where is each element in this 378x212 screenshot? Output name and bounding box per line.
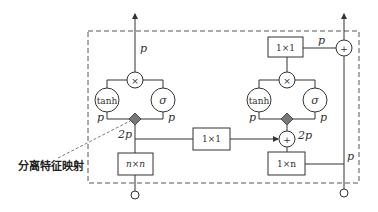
right-tanh-p-label: p: [249, 111, 256, 124]
left-conv-label: n×n: [126, 159, 145, 169]
right-sigma-p-label: p: [320, 111, 327, 124]
right-split-diamond-icon: [281, 113, 293, 125]
right-top-p-label: p: [318, 34, 325, 47]
left-tanh-label: tanh: [97, 96, 118, 106]
left-split-diamond-icon: [129, 113, 141, 125]
split-feature-map-annotation: 分离特征映射: [18, 159, 84, 173]
right-multiply-icon: ×: [283, 76, 291, 86]
left-tanh-p-label: p: [97, 111, 104, 124]
left-gated-block: p × tanh σ p p 2p n×n: [95, 14, 175, 199]
middle-conv-label: 1×1: [202, 134, 221, 144]
right-input-node: [340, 189, 348, 197]
left-split-label: 2p: [117, 128, 132, 141]
right-add-icon: +: [283, 135, 291, 145]
middle-connection: 1×1: [135, 128, 278, 150]
right-add-label: 2p: [297, 129, 312, 142]
gated-conv-diagram: p × tanh σ p p 2p n×n 分离特征映射 1×1 1×1 p: [0, 0, 378, 212]
right-sigmoid-label: σ: [311, 94, 319, 107]
left-multiply-icon: ×: [131, 76, 139, 86]
left-sigma-p-label: p: [168, 111, 175, 124]
left-output-label: p: [140, 42, 147, 55]
left-input-node: [131, 191, 139, 199]
right-conv-label: 1×n: [277, 159, 296, 169]
right-tanh-label: tanh: [249, 96, 270, 106]
right-top-conv-label: 1×1: [276, 43, 295, 53]
residual-p-label: p: [347, 150, 354, 163]
left-sigmoid-label: σ: [159, 94, 167, 107]
residual-add-icon: +: [340, 44, 348, 54]
right-gated-block: 1×1 p + × tanh σ p p + 2p 1×n p: [247, 14, 354, 197]
